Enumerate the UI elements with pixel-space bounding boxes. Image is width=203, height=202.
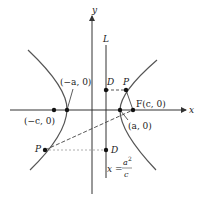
point-d-lower [104, 148, 108, 152]
directrix-equation-lhs: x = [107, 164, 122, 174]
label-pos-a: (a, 0) [128, 121, 152, 131]
label-p-upper: P [122, 77, 130, 87]
point-focus [131, 108, 135, 112]
point-p-lower [43, 148, 47, 152]
point-neg-c [52, 108, 56, 112]
hyperbola-diagram: x y L (−c, 0) (−a, 0) (a, 0) F(c, 0) P D… [0, 0, 203, 202]
point-neg-a [65, 108, 69, 112]
y-axis-label: y [91, 5, 98, 15]
label-focus: F(c, 0) [136, 99, 166, 109]
label-d-lower: D [110, 145, 118, 155]
point-pos-a [118, 108, 122, 112]
label-p-lower: P [34, 144, 42, 154]
leader-neg-a [67, 89, 73, 110]
label-d-upper: D [106, 77, 114, 87]
dist-pf-lower [45, 110, 133, 150]
directrix-equation-exp: 2 [128, 155, 132, 162]
point-p-upper [124, 88, 128, 92]
x-axis-label: x [189, 105, 194, 115]
directrix-equation-den: c [124, 170, 129, 179]
point-d-upper [104, 88, 108, 92]
label-neg-a: (−a, 0) [60, 77, 91, 87]
label-neg-c: (−c, 0) [24, 116, 55, 126]
directrix-label: L [102, 34, 109, 44]
dist-pf-upper [126, 90, 133, 110]
